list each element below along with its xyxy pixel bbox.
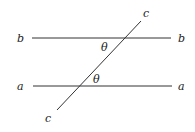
label-a-left: a — [17, 80, 24, 93]
label-theta-upper: θ — [101, 41, 108, 54]
label-theta-lower: θ — [93, 73, 100, 86]
label-a-right: a — [178, 80, 185, 93]
label-c-top: c — [143, 7, 149, 20]
label-c-bottom: c — [45, 112, 51, 125]
parallel-lines-diagram: b b a a c c θ θ — [0, 0, 195, 132]
transversal-c — [57, 21, 141, 110]
label-b-left: b — [17, 32, 24, 45]
label-b-right: b — [178, 32, 185, 45]
